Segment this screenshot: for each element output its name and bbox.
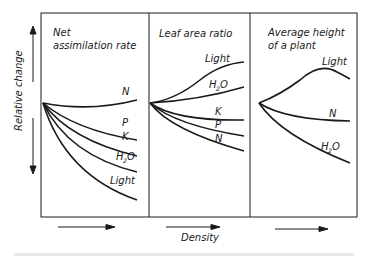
label-light: Light	[110, 175, 136, 186]
panel-3-title-line2: of a plant	[268, 40, 317, 51]
panel-average-height: Average height of a plant Light N H 2 O	[259, 27, 350, 163]
svg-text:O: O	[332, 141, 340, 152]
label-n: N	[215, 133, 223, 144]
curve-n	[43, 100, 137, 107]
x-axis-label: Density	[181, 232, 220, 243]
label-k: K	[215, 106, 223, 117]
x-axis-arrows	[58, 225, 328, 232]
label-n: N	[122, 86, 130, 97]
svg-text:O: O	[220, 79, 228, 90]
label-light: Light	[205, 53, 231, 64]
panel-1-title-line2: assimilation rate	[53, 40, 136, 51]
y-axis-label: Relative change	[13, 50, 24, 131]
curve-k	[43, 103, 137, 156]
panel-net-assimilation-rate: Net assimilation rate N P K H 2 O Light	[43, 27, 137, 200]
cut-off-caption	[14, 253, 354, 256]
label-k: K	[122, 131, 130, 142]
label-h2o: H 2 O	[209, 79, 228, 92]
y-axis-arrows	[30, 26, 36, 174]
label-light: Light	[322, 56, 348, 67]
panel-2-title: Leaf area ratio	[159, 28, 232, 39]
density-effects-diagram: Relative change Net assimilation rate N …	[0, 0, 376, 258]
panel-3-title-line1: Average height	[267, 27, 346, 38]
panel-1-title-line1: Net	[53, 27, 72, 38]
curve-light	[150, 62, 244, 103]
panel-leaf-area-ratio: Leaf area ratio Light H 2 O K P N	[150, 28, 244, 151]
curve-light	[259, 68, 350, 103]
label-p: P	[122, 117, 129, 128]
label-n: N	[329, 108, 337, 119]
label-p: P	[215, 119, 222, 130]
svg-text:O: O	[127, 151, 135, 162]
